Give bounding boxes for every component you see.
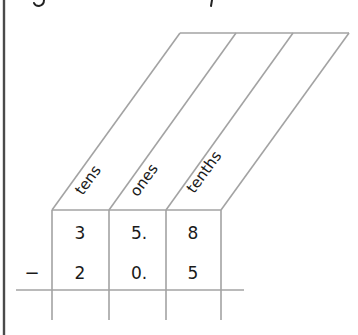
column-label-tenths: tenths xyxy=(183,147,226,196)
subtrahend-tenths: 5 xyxy=(188,263,199,283)
column-label-tens: tens xyxy=(71,162,105,199)
header-divider-4 xyxy=(221,33,349,210)
column-label-ones: ones xyxy=(126,160,162,200)
subtrahend-row: − 2 0. 5 xyxy=(24,262,198,283)
minuend-tens: 3 xyxy=(75,223,86,243)
cut-off-text-fragment xyxy=(34,0,44,6)
slanted-header: tens ones tenths xyxy=(52,33,349,210)
subtrahend-ones: 0. xyxy=(131,263,147,283)
minuend-tenths: 8 xyxy=(188,223,199,243)
minus-sign: − xyxy=(24,262,39,283)
header-divider-1 xyxy=(52,33,180,210)
minuend-row: 3 5. 8 xyxy=(75,223,199,243)
place-value-diagram: tens ones tenths 3 5. 8 − 2 0. 5 xyxy=(0,0,358,335)
subtrahend-tens: 2 xyxy=(75,263,86,283)
minuend-ones: 5. xyxy=(131,223,147,243)
cut-off-text-fragment xyxy=(211,0,212,6)
header-divider-2 xyxy=(109,33,236,210)
diagram-canvas: tens ones tenths 3 5. 8 − 2 0. 5 xyxy=(0,0,358,335)
